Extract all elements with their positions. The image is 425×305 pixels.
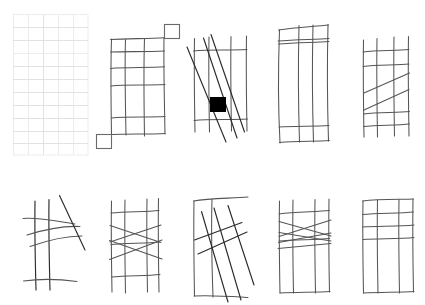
slash-grid-svg: [5, 180, 105, 300]
grid-horizontals: [23, 218, 82, 281]
upper-cross-diagonals: [278, 220, 331, 249]
corner-square-bottom-left: [97, 135, 112, 149]
grid-horizontals: [111, 38, 166, 135]
panel-grid-with-corner-squares[interactable]: [85, 10, 185, 160]
grid-horizontals: [363, 50, 410, 127]
corner-square-grid-svg: [85, 10, 185, 160]
top-banded-grid-svg: [352, 180, 425, 300]
faint-grid-verticals: [14, 14, 89, 155]
panel-grid-with-diagonals-and-block[interactable]: [178, 10, 278, 160]
grid-horizontals: [363, 199, 415, 293]
panel-grid-vertical-dominant[interactable]: [265, 10, 365, 160]
steep-diagonals: [195, 206, 255, 303]
grid-horizontals: [278, 25, 330, 143]
panel-grid-with-upper-cross[interactable]: [265, 180, 365, 300]
panel-grid-with-shallow-zigzag[interactable]: [352, 10, 425, 160]
panel-grid-with-slash[interactable]: [5, 180, 105, 300]
panel-grid-top-banded[interactable]: [352, 180, 425, 300]
filled-square-marker: [210, 97, 226, 112]
vertical-grid-svg: [265, 10, 365, 160]
slash-diagonal: [60, 196, 86, 251]
diagonal-block-grid-svg: [178, 10, 278, 160]
faint-grid-horizontals: [13, 15, 88, 156]
zigzag-diagonals: [364, 73, 410, 110]
upper-cross-grid-svg: [265, 180, 365, 300]
zigzag-grid-svg: [352, 10, 425, 160]
grid-verticals: [35, 200, 50, 291]
